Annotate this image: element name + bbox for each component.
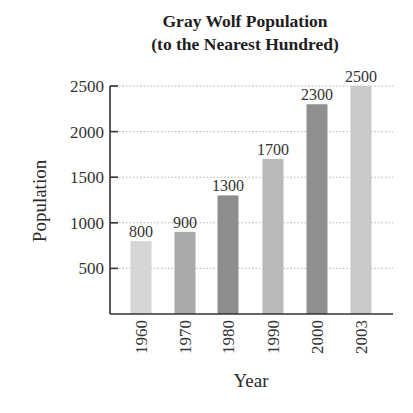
bar-1960 [131,241,152,314]
value-label: 2300 [301,86,333,103]
value-label: 900 [173,214,197,231]
x-tick-label: 1970 [176,320,195,354]
value-label: 1300 [212,177,244,194]
x-axis-ticks: 196019701980199020002003 [132,320,371,354]
value-label: 1700 [257,141,289,158]
value-label: 2500 [345,68,377,85]
y-tick-label: 1000 [70,214,104,233]
bar-1970 [175,232,196,314]
bar-1990 [263,159,284,314]
y-tick-label: 2000 [70,123,104,142]
value-label: 800 [129,223,153,240]
bar-chart: 5001000150020002500 19601970198019902000… [0,0,413,413]
y-tick-label: 2500 [70,77,104,96]
x-tick-label: 1980 [219,320,238,354]
y-tick-label: 500 [79,259,105,278]
bar-1980 [218,195,239,314]
y-axis-title: Population [29,159,50,242]
x-tick-label: 2000 [308,320,327,354]
value-labels: 8009001300170023002500 [129,68,377,240]
x-axis-title: Year [233,370,269,391]
y-tick-label: 1500 [70,168,104,187]
bars [131,86,372,314]
x-tick-label: 1990 [264,320,283,354]
x-tick-label: 1960 [132,320,151,354]
bar-2003 [351,86,372,314]
y-axis-ticks: 5001000150020002500 [70,77,118,278]
bar-2000 [307,104,328,314]
x-tick-label: 2003 [352,320,371,354]
